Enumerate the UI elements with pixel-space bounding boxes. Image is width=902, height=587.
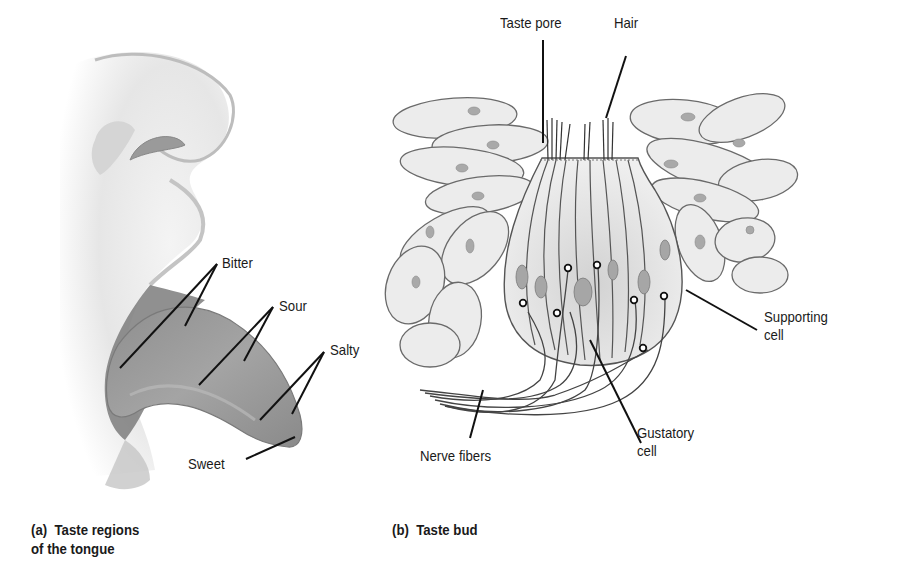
label-supporting-cell: Supporting cell — [764, 308, 828, 344]
caption-a: (a) Taste regions of the tongue — [31, 520, 139, 558]
label-salty: Salty — [330, 341, 359, 359]
taste-bud — [375, 84, 801, 415]
caption-b: (b) Taste bud — [392, 520, 478, 539]
label-hair: Hair — [614, 14, 638, 32]
illustration — [0, 0, 902, 587]
face-profile — [60, 52, 233, 489]
label-sour: Sour — [279, 297, 307, 315]
label-sweet: Sweet — [188, 455, 225, 473]
label-nerve-fibers: Nerve fibers — [420, 447, 491, 465]
label-taste-pore: Taste pore — [500, 14, 562, 32]
label-gustatory-cell: Gustatory cell — [637, 424, 694, 460]
taste-figure: Bitter Sour Salty Sweet Taste pore Hair … — [0, 0, 902, 587]
label-bitter: Bitter — [222, 254, 253, 272]
